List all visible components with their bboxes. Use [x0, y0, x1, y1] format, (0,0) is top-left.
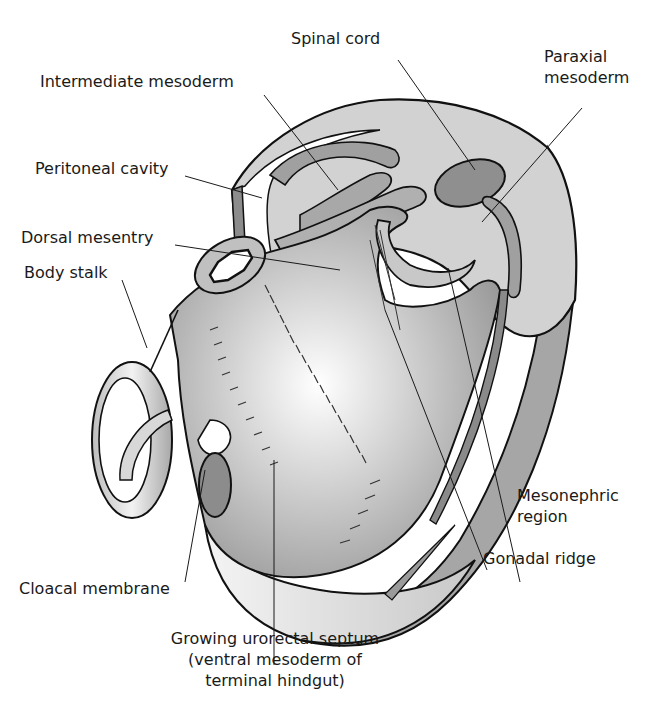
- embryo-hindgut-diagram: Spinal cord Intermediate mesoderm Paraxi…: [0, 0, 654, 704]
- label-dorsal-mesentry: Dorsal mesentry: [21, 227, 153, 248]
- label-paraxial-mesoderm: Paraxial mesoderm: [544, 46, 629, 88]
- label-body-stalk: Body stalk: [24, 262, 108, 283]
- label-gonadal-ridge: Gonadal ridge: [483, 548, 596, 569]
- label-intermediate-mesoderm: Intermediate mesoderm: [40, 71, 234, 92]
- label-line: Paraxial: [544, 46, 629, 67]
- label-line: terminal hindgut): [150, 670, 400, 691]
- label-cloacal-membrane: Cloacal membrane: [19, 578, 170, 599]
- label-spinal-cord: Spinal cord: [291, 28, 380, 49]
- label-peritoneal-cavity: Peritoneal cavity: [35, 158, 169, 179]
- cloaca: [198, 420, 231, 517]
- cloacal-membrane-shape: [199, 453, 231, 517]
- label-line: Growing urorectal septum: [150, 628, 400, 649]
- label-line: region: [517, 506, 619, 527]
- body-stalk-ring: [92, 310, 178, 518]
- label-urorectal-septum: Growing urorectal septum (ventral mesode…: [150, 628, 400, 691]
- label-mesonephric-region: Mesonephric region: [517, 485, 619, 527]
- label-line: (ventral mesoderm of: [150, 649, 400, 670]
- label-line: mesoderm: [544, 67, 629, 88]
- label-line: Mesonephric: [517, 485, 619, 506]
